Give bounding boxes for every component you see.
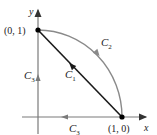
y-axis-label: y [28,6,34,17]
curve-label-c3-horizontal: C3 [69,122,80,135]
x-axis-label: x [143,122,149,133]
curve-label-c1: C1 [65,68,76,83]
point-label-0-1: (0, 1) [4,25,26,37]
c3-vertical-arrow-icon [35,74,40,81]
curve-label-c2: C2 [101,36,112,51]
c3-horizontal-arrow-icon [61,114,68,119]
diagram-canvas: y x (0, 1) (1, 0) C2 C1 C3 C3 [0,0,157,135]
point-1-0 [119,114,124,119]
curve-label-c3-vertical: C3 [24,69,35,84]
point-label-1-0: (1, 0) [108,123,130,135]
point-0-1 [35,27,40,32]
c2-direction-arrow-icon [93,49,102,58]
